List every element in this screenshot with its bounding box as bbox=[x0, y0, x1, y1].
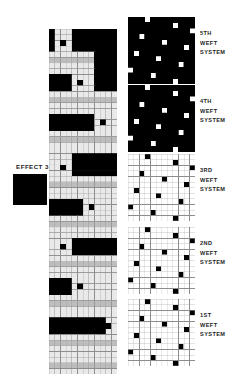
weft-system-1st-grid bbox=[128, 299, 195, 366]
weft-system-3rd-canvas bbox=[128, 154, 195, 221]
weft-system-4th-label-line-1: 4TH bbox=[200, 97, 225, 107]
weave-cross-section bbox=[49, 29, 117, 374]
weft-system-5th-label-line-1: 5TH bbox=[200, 29, 225, 39]
weft-system-2nd-label-line-1: 2ND bbox=[200, 239, 225, 249]
weft-system-2nd-label-line-2: WEFT bbox=[200, 249, 225, 259]
weft-system-1st-canvas bbox=[128, 299, 195, 366]
weft-system-3rd-label: 3RDWEFTSYSTEM bbox=[200, 166, 225, 195]
weft-system-2nd-label-line-3: SYSTEM bbox=[200, 258, 225, 268]
weft-system-4th-label: 4THWEFTSYSTEM bbox=[200, 97, 225, 126]
weft-system-2nd-label: 2NDWEFTSYSTEM bbox=[200, 239, 225, 268]
weft-system-2nd-grid bbox=[128, 227, 195, 294]
weft-system-2nd-canvas bbox=[128, 227, 195, 294]
weft-system-1st-label-line-2: WEFT bbox=[200, 321, 225, 331]
weft-system-1st-label-line-3: SYSTEM bbox=[200, 330, 225, 340]
weft-system-4th-label-line-3: SYSTEM bbox=[200, 116, 225, 126]
weft-system-3rd-label-line-3: SYSTEM bbox=[200, 185, 225, 195]
weft-system-1st-label: 1STWEFTSYSTEM bbox=[200, 311, 225, 340]
weave-cross-section-canvas bbox=[49, 29, 117, 374]
weft-system-4th-canvas bbox=[128, 85, 195, 152]
weft-system-4th-grid bbox=[128, 85, 195, 152]
weft-system-3rd-grid bbox=[128, 154, 195, 221]
weft-system-5th-label: 5THWEFTSYSTEM bbox=[200, 29, 225, 58]
effect-3-swatch bbox=[13, 174, 47, 205]
weft-system-5th-grid bbox=[128, 17, 195, 84]
weft-system-3rd-label-line-2: WEFT bbox=[200, 176, 225, 186]
weft-system-5th-label-line-2: WEFT bbox=[200, 39, 225, 49]
weft-system-4th-label-line-2: WEFT bbox=[200, 107, 225, 117]
weft-system-1st-label-line-1: 1ST bbox=[200, 311, 225, 321]
weft-system-5th-label-line-3: SYSTEM bbox=[200, 48, 225, 58]
weft-system-5th-canvas bbox=[128, 17, 195, 84]
diagram-canvas: EFFECT 3 5THWEFTSYSTEM4THWEFTSYSTEM3RDWE… bbox=[0, 0, 241, 384]
weft-system-3rd-label-line-1: 3RD bbox=[200, 166, 225, 176]
